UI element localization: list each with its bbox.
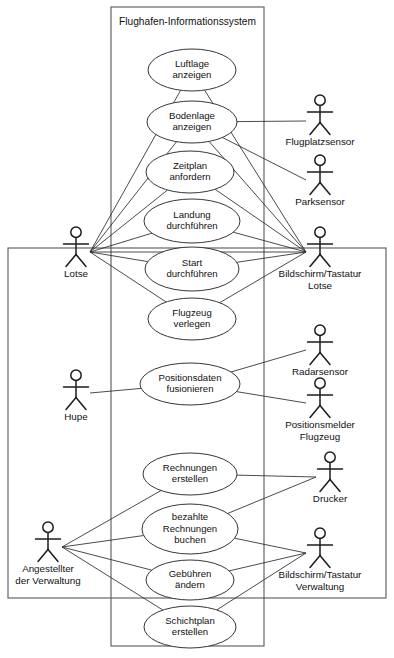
actor-leg-left-icon: [38, 549, 48, 561]
actor-leg-right-icon: [320, 352, 330, 364]
actor-label-line: Radarsensor: [292, 366, 349, 377]
actor-angestellter-der-verwaltung[interactable]: Angestellterder Verwaltung: [15, 522, 80, 586]
association-line: [237, 252, 306, 262]
actor-head-icon: [315, 155, 325, 165]
use-case-label-line: anzeigen: [173, 69, 212, 80]
uc-rechnungen-erstellen[interactable]: Rechnungenerstellen: [143, 453, 237, 495]
actor-head-icon: [71, 370, 81, 380]
association-line: [237, 475, 316, 477]
use-case-label-line: Flugzeug: [172, 307, 211, 318]
association-line: [229, 553, 306, 571]
actor-bildschirm-tastatur-lotse[interactable]: Bildschirm/TastaturLotse: [279, 227, 362, 291]
actor-leg-right-icon: [320, 182, 330, 194]
actor-head-icon: [315, 378, 325, 388]
actor-parksensor[interactable]: Parksensor: [295, 155, 345, 207]
actor-label-line: Positionsmelder: [285, 419, 355, 430]
actor-head-icon: [315, 95, 325, 105]
association-line: [228, 477, 316, 513]
actor-label-line: Lotse: [308, 280, 333, 291]
actor-label-line: Flugzeug: [300, 431, 340, 442]
actor-leg-left-icon: [310, 254, 320, 266]
uc-bezahlte-rechnungen-buchen[interactable]: bezahlteRechnungenbuchen: [142, 504, 238, 554]
actor-leg-right-icon: [330, 479, 340, 491]
actor-label-line: Parksensor: [295, 196, 345, 207]
use-case-label-line: Bodenlage: [169, 110, 215, 121]
association-line: [237, 121, 306, 122]
uc-gebuehren-aendern[interactable]: Gebührenändern: [146, 560, 234, 600]
actor-leg-left-icon: [310, 182, 320, 194]
actor-leg-right-icon: [320, 254, 330, 266]
actor-head-icon: [71, 227, 81, 237]
uc-luftlage-anzeigen[interactable]: Luftlageanzeigen: [148, 49, 236, 91]
actor-head-icon: [43, 522, 53, 532]
use-case-label-line: Schichtplan: [165, 615, 215, 626]
actor-head-icon: [315, 227, 325, 237]
use-case-label-line: ändern: [175, 579, 205, 590]
actor-leg-left-icon: [66, 397, 76, 409]
actor-label-line: der Verwaltung: [15, 575, 80, 586]
actor-leg-left-icon: [320, 479, 330, 491]
uc-schichtplan-erstellen[interactable]: Schichtplanerstellen: [144, 606, 236, 648]
uc-bodenlage-anzeigen[interactable]: Bodenlageanzeigen: [147, 101, 237, 143]
use-case-label-line: Zeitplan: [173, 160, 207, 171]
actor-label-line: Hupe: [64, 411, 88, 422]
use-case-label-line: Rechnungen: [163, 462, 217, 473]
use-case-label-line: Gebühren: [169, 568, 212, 579]
uc-flugzeug-verlegen[interactable]: Flugzeugverlegen: [148, 298, 236, 340]
uc-positionsdaten-fusionieren[interactable]: Positionsdatenfusionieren: [140, 363, 240, 405]
association-line: [237, 392, 306, 403]
actor-head-icon: [315, 325, 325, 335]
actor-leg-left-icon: [310, 352, 320, 364]
use-case-label-line: bezahlte: [172, 511, 208, 522]
system-title: Flughafen-Informationssystem: [119, 16, 256, 27]
actor-leg-left-icon: [310, 122, 320, 134]
diagram-canvas: LuftlageanzeigenBodenlageanzeigenZeitpla…: [0, 0, 394, 658]
use-case-label-line: Rechnungen: [163, 523, 217, 534]
actor-lotse[interactable]: Lotse: [64, 227, 89, 279]
actor-label-line: Bildschirm/Tastatur: [279, 268, 362, 279]
actor-label-line: Flugplatzsensor: [285, 136, 355, 147]
actor-label-line: Drucker: [313, 493, 348, 504]
actor-leg-right-icon: [320, 405, 330, 417]
actor-hupe[interactable]: Hupe: [64, 370, 89, 422]
use-case-label-line: durchführen: [166, 268, 217, 279]
use-case-label-line: anzeigen: [173, 121, 212, 132]
actor-leg-right-icon: [320, 555, 330, 567]
actor-leg-left-icon: [66, 254, 76, 266]
use-case-label-line: buchen: [174, 534, 205, 545]
actor-drucker[interactable]: Drucker: [313, 452, 348, 504]
system-title-group: Flughafen-Informationssystem: [119, 16, 256, 27]
actor-bildschirm-tastatur-verwaltung[interactable]: Bildschirm/TastaturVerwaltung: [279, 528, 362, 592]
association-line: [62, 547, 152, 570]
actor-leg-right-icon: [76, 254, 86, 266]
use-case-label-line: Positionsdaten: [159, 372, 222, 383]
actor-leg-right-icon: [320, 122, 330, 134]
association-line: [62, 536, 144, 547]
uc-landung-durchfuehren[interactable]: Landungdurchführen: [144, 199, 240, 243]
actor-label-line: Verwaltung: [296, 581, 344, 592]
association-line: [90, 388, 141, 393]
use-case-label-line: anfordern: [169, 171, 210, 182]
actor-label-line: Angestellter: [22, 563, 74, 574]
actor-head-icon: [315, 528, 325, 538]
actor-head-icon: [325, 452, 335, 462]
actor-leg-right-icon: [76, 397, 86, 409]
association-line: [235, 538, 306, 553]
use-case-label-line: Luftlage: [175, 58, 209, 69]
actor-leg-left-icon: [310, 405, 320, 417]
use-case-diagram: LuftlageanzeigenBodenlageanzeigenZeitpla…: [0, 0, 394, 658]
uc-zeitplan-anfordern[interactable]: Zeitplananfordern: [146, 151, 234, 193]
use-case-label-line: durchführen: [166, 220, 217, 231]
use-case-label-line: fusionieren: [167, 383, 214, 394]
actor-positionsmelder-flugzeug[interactable]: PositionsmelderFlugzeug: [285, 378, 355, 442]
association-line: [90, 252, 148, 262]
actor-label-line: Lotse: [64, 268, 89, 279]
use-case-label-line: Landung: [173, 209, 210, 220]
actor-leg-left-icon: [310, 555, 320, 567]
use-case-label-line: verlegen: [174, 318, 211, 329]
use-case-label-line: erstellen: [172, 473, 208, 484]
uc-start-durchfuehren[interactable]: Startdurchführen: [145, 247, 239, 291]
use-case-label-line: erstellen: [172, 626, 208, 637]
use-case-label-line: Start: [182, 257, 203, 268]
actor-label-line: Bildschirm/Tastatur: [279, 569, 362, 580]
